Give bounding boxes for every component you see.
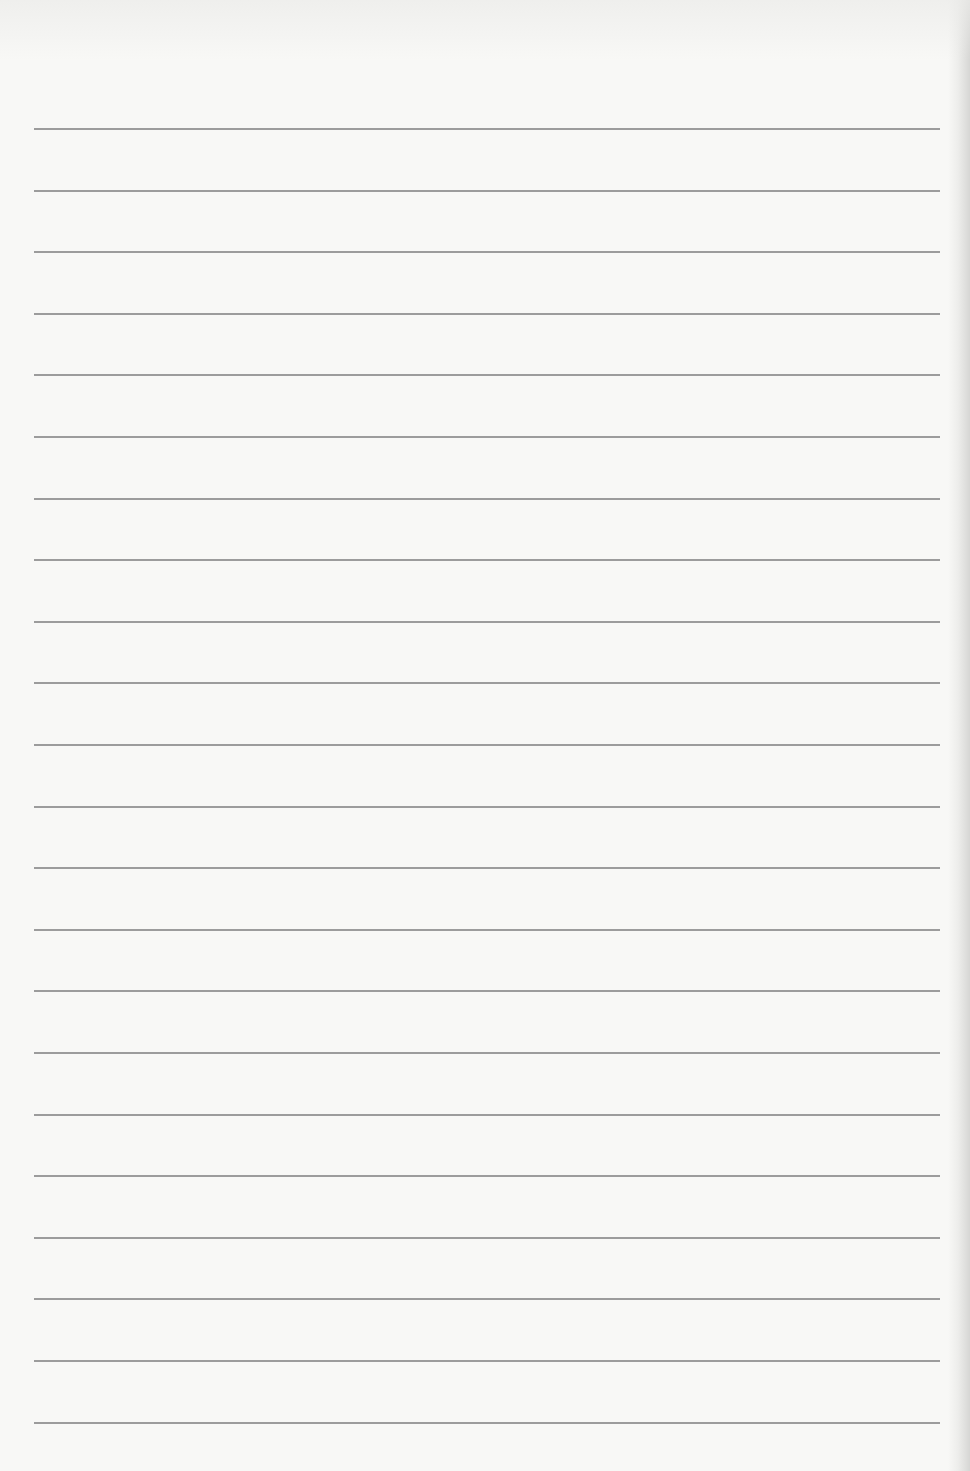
ruled-line [34,1175,940,1177]
ruled-line [34,867,940,869]
ruled-line [34,498,940,500]
ruled-line [34,1422,940,1424]
ruled-line [34,251,940,253]
ruled-line [34,990,940,992]
ruled-line [34,806,940,808]
ruled-line [34,1298,940,1300]
ruled-line [34,190,940,192]
ruled-line [34,374,940,376]
ruled-line [34,929,940,931]
ruled-line [34,559,940,561]
ruled-line [34,1114,940,1116]
ruled-notebook-page [0,0,970,1471]
ruled-line [34,313,940,315]
ruled-line [34,1360,940,1362]
ruled-line [34,436,940,438]
ruled-line [34,1052,940,1054]
ruled-line [34,128,940,130]
ruled-line [34,682,940,684]
ruled-line [34,1237,940,1239]
ruled-line [34,744,940,746]
ruled-line [34,621,940,623]
